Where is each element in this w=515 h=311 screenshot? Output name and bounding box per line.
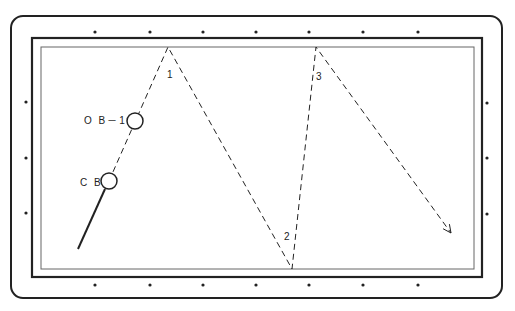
diamond-dot — [307, 30, 310, 33]
bank-1-label: 1 — [167, 69, 175, 80]
bank-2-label: 2 — [284, 231, 292, 242]
diamond-dot — [93, 30, 96, 33]
diamond-markers — [24, 30, 488, 286]
diamond-dot — [416, 30, 419, 33]
diamond-dot — [361, 30, 364, 33]
cue-ball — [101, 173, 117, 189]
diamond-dot — [254, 30, 257, 33]
bank-3-label: 3 — [316, 71, 324, 82]
cue-ball-label: C B — [80, 177, 103, 188]
diamond-dot — [201, 283, 204, 286]
object-ball — [127, 113, 143, 129]
table-cushion-line — [41, 47, 474, 269]
diamond-dot — [254, 283, 257, 286]
diamond-dot — [485, 156, 488, 159]
table-svg: O B－1 C B 1 2 3 — [0, 0, 515, 311]
diamond-dot — [24, 156, 27, 159]
diamond-dot — [24, 100, 27, 103]
table-rail — [32, 38, 482, 277]
diamond-dot — [361, 283, 364, 286]
diamond-dot — [201, 30, 204, 33]
diamond-dot — [485, 212, 488, 215]
table-outer-frame — [11, 16, 502, 298]
diamond-dot — [416, 283, 419, 286]
cue-stick — [78, 189, 105, 249]
diamond-dot — [148, 30, 151, 33]
diamond-dot — [93, 283, 96, 286]
diamond-dot — [307, 283, 310, 286]
object-ball-label: O B－1 — [84, 115, 127, 126]
diamond-dot — [148, 283, 151, 286]
billiards-diagram: O B－1 C B 1 2 3 — [0, 0, 515, 311]
diamond-dot — [24, 211, 27, 214]
diamond-dot — [485, 101, 488, 104]
ball-path-dashed — [109, 47, 451, 269]
